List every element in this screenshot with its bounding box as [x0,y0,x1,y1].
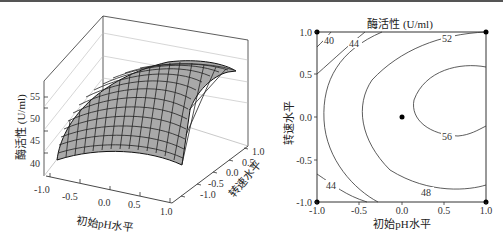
svg-text:52: 52 [442,33,452,44]
svg-text:-0.5: -0.5 [351,205,367,216]
svg-text:0.0: 0.0 [300,112,313,123]
svg-text:44: 44 [326,180,336,191]
svg-text:-1.0: -1.0 [309,205,325,216]
svg-text:0.5: 0.5 [438,205,451,216]
svg-text:48: 48 [421,187,431,198]
svg-text:0.5: 0.5 [300,69,313,80]
contour-labels: 40 44 52 56 44 48 [323,33,455,198]
svg-text:1.0: 1.0 [300,27,313,38]
contour-title: 酶活性 (U/ml) [367,17,433,31]
svg-text:56: 56 [442,131,452,142]
contour-y-tick-labels: 1.0 0.5 0.0 -0.5 -1.0 [296,27,312,208]
svg-text:40: 40 [324,35,334,46]
contour-plot: 酶活性 (U/ml) 40 44 52 56 44 48 [0,0,503,241]
svg-text:44: 44 [349,38,359,49]
contour-y-axis-label: 转速水平 [282,101,295,145]
svg-text:-0.5: -0.5 [296,155,312,166]
svg-text:0.0: 0.0 [396,205,409,216]
contour-x-axis-label: 初始pH水平 [373,217,430,230]
contour-x-tick-labels: -1.0 -0.5 0.0 0.5 1.0 [309,205,492,216]
svg-text:1.0: 1.0 [480,205,493,216]
